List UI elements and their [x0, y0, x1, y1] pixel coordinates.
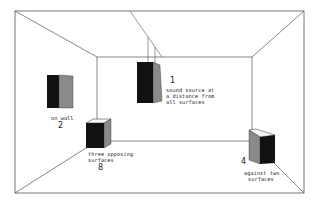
position-label-4-line-2: surfaces — [248, 176, 274, 182]
room-diagram: 1 sound source at a distance from all su… — [0, 0, 318, 205]
position-number-8: 8 — [98, 163, 103, 172]
speaker-4-against-two — [249, 129, 275, 164]
position-number-2: 2 — [58, 121, 63, 130]
position-label-1-line-3: all surfaces — [166, 99, 205, 105]
suspension-wires — [130, 11, 162, 63]
position-number-1: 1 — [170, 76, 175, 85]
speaker-8-corner — [86, 119, 111, 148]
position-number-4: 4 — [241, 157, 246, 166]
speaker-1-hanging — [137, 62, 162, 103]
speaker-2-on-wall — [47, 75, 73, 108]
